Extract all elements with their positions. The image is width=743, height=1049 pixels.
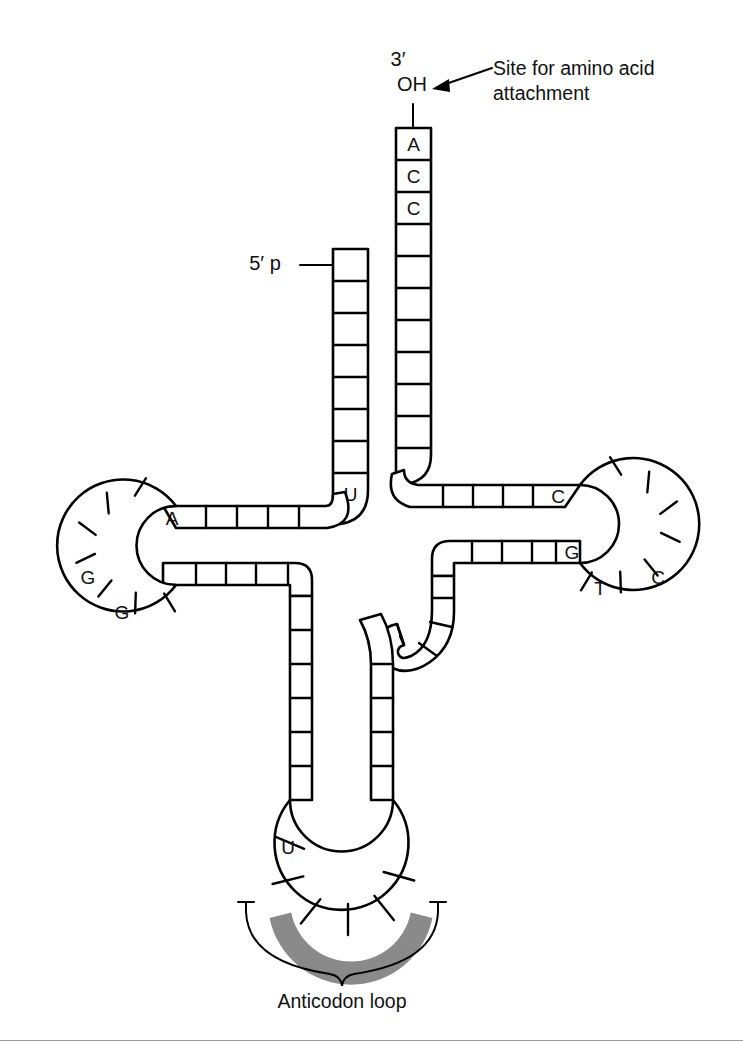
base-anticodon-U: U (281, 837, 295, 858)
base-3prime-C1: C (407, 166, 421, 187)
acceptor-stem-3prime-strand: A C C (396, 104, 431, 484)
base-darm-G1: G (81, 567, 96, 588)
three-prime-label: 3′ (391, 48, 406, 70)
base-3prime-C2: C (407, 198, 421, 219)
amino-acid-site-line2: attachment (493, 82, 590, 104)
amino-acid-site-line1: Site for amino acid (493, 57, 655, 79)
base-darm-A: A (166, 508, 179, 529)
trna-diagram: A C C U A (0, 0, 743, 1049)
base-tarm-C-loop: C (651, 567, 665, 588)
trna-cloverleaf-svg: A C C U A (0, 0, 743, 1049)
five-prime-label: 5′ p (249, 252, 281, 274)
base-tarm-T: T (594, 578, 606, 599)
base-darm-G2: G (115, 602, 130, 623)
footer-divider (0, 1040, 743, 1041)
base-tarm-C-stem: C (551, 486, 565, 507)
anticodon-left-stem (290, 596, 312, 800)
base-3prime-A: A (407, 134, 420, 155)
base-tarm-G-stem: G (565, 542, 580, 563)
anticodon-loop-label: Anticodon loop (277, 990, 406, 1012)
oh-label: OH (397, 73, 427, 95)
